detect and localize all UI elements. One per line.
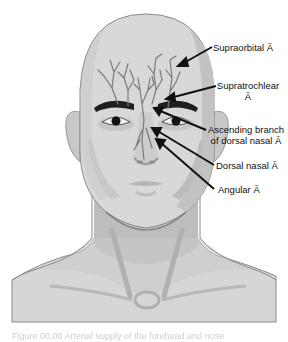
- left-ear: [66, 111, 80, 162]
- label-supraorbital: Supraorbital Ã: [213, 42, 273, 53]
- label-supratrochlear: Supratrochlear Ã: [216, 80, 280, 102]
- anatomy-diagram: Supraorbital Ã Supratrochlear Ã Ascendin…: [0, 0, 288, 342]
- label-angular: Angular Ã: [218, 184, 260, 195]
- label-dorsal-nasal: Dorsal nasal Ã: [216, 160, 278, 171]
- figure-caption: Figure 00.00 Arterial supply of the fore…: [12, 331, 276, 341]
- label-ascending-branch: Ascending branch of dorsal nasal Ã: [206, 124, 286, 146]
